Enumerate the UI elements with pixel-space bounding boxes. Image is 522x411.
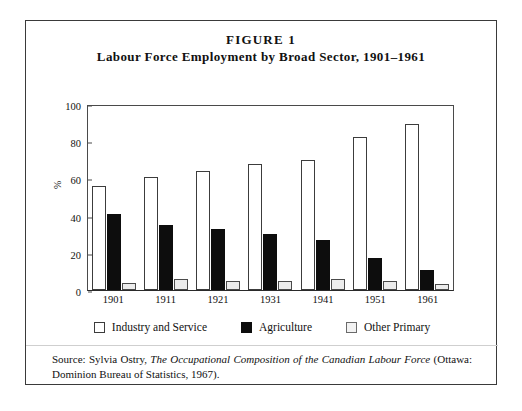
bar-other-1901	[122, 283, 136, 290]
bar-agri-1911	[159, 225, 173, 290]
bar-groups	[88, 106, 453, 290]
legend-swatch-other	[346, 322, 357, 333]
chart-legend: Industry and ServiceAgricultureOther Pri…	[26, 321, 498, 333]
y-tick-mark	[88, 292, 92, 293]
plot-area: 020406080100	[87, 105, 454, 291]
bar-industry-1951	[353, 137, 367, 290]
chart-plot-wrapper: % 020406080100 1901191119211931194119511…	[26, 21, 498, 386]
y-tick-label: 20	[71, 249, 89, 260]
source-italic-title: The Occupational Composition of the Cana…	[150, 353, 430, 365]
bar-agri-1951	[368, 258, 382, 290]
y-tick-label: 60	[71, 175, 89, 186]
source-note: Source: Sylvia Ostry, The Occupational C…	[52, 352, 472, 381]
bar-agri-1901	[107, 214, 121, 290]
y-tick-label: 40	[71, 212, 89, 223]
legend-item: Other Primary	[346, 321, 430, 333]
figure-frame: FIGURE 1 Labour Force Employment by Broa…	[25, 20, 497, 385]
legend-label: Industry and Service	[112, 321, 207, 333]
bar-industry-1941	[301, 160, 315, 290]
bar-industry-1961	[405, 124, 419, 290]
source-prefix: Source: Sylvia Ostry,	[52, 353, 150, 365]
legend-swatch-industry	[94, 322, 105, 333]
source-divider	[26, 345, 498, 346]
bar-group	[92, 106, 136, 290]
bar-industry-1931	[248, 164, 262, 290]
bar-group	[301, 106, 345, 290]
bar-industry-1921	[196, 171, 210, 290]
bar-group	[248, 106, 292, 290]
bar-other-1911	[174, 279, 188, 290]
bar-industry-1901	[92, 186, 106, 290]
y-tick-label: 100	[65, 101, 88, 112]
bar-other-1921	[226, 281, 240, 290]
bar-group	[405, 106, 449, 290]
legend-label: Agriculture	[259, 321, 312, 333]
bar-agri-1961	[420, 270, 434, 290]
bar-other-1941	[331, 279, 345, 290]
bar-agri-1941	[316, 240, 330, 290]
x-tick-label: 1951	[349, 294, 401, 310]
bar-group	[196, 106, 240, 290]
x-tick-label: 1961	[402, 294, 454, 310]
x-tick-label: 1931	[244, 294, 296, 310]
x-tick-label: 1901	[87, 294, 139, 310]
bar-other-1931	[278, 281, 292, 290]
x-tick-label: 1911	[140, 294, 192, 310]
bar-industry-1911	[144, 177, 158, 290]
bar-agri-1931	[263, 234, 277, 290]
x-tick-label: 1941	[297, 294, 349, 310]
x-axis-labels: 1901191119211931194119511961	[87, 294, 454, 310]
y-tick-label: 80	[71, 138, 89, 149]
legend-item: Agriculture	[241, 321, 312, 333]
y-axis-label: %	[52, 181, 63, 189]
bar-other-1951	[383, 281, 397, 290]
legend-swatch-agri	[241, 322, 252, 333]
bar-other-1961	[435, 284, 449, 290]
x-tick-label: 1921	[192, 294, 244, 310]
legend-label: Other Primary	[364, 321, 430, 333]
legend-item: Industry and Service	[94, 321, 207, 333]
bar-agri-1921	[211, 229, 225, 290]
bar-group	[144, 106, 188, 290]
bar-group	[353, 106, 397, 290]
